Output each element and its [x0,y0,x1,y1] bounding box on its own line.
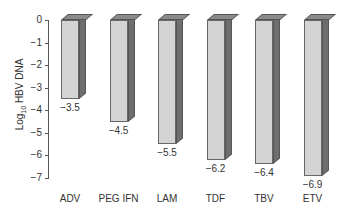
bar-front [158,20,176,144]
bar-top [110,14,142,20]
value-label: −3.5 [50,102,90,113]
bar-front [110,20,128,122]
y-tick [45,155,49,156]
bar-top [304,14,336,20]
y-axis-line [48,20,49,178]
bar-top [255,14,287,20]
bar-side [225,14,232,160]
y-tick-label: −4 [22,105,42,115]
y-tick [45,133,49,134]
y-tick [45,110,49,111]
bar-front [304,20,322,176]
y-tick [45,20,49,21]
bar-top [207,14,239,20]
y-tick-label: −6 [22,150,42,160]
y-tick [45,65,49,66]
y-tick [45,43,49,44]
y-tick-label: −7 [22,173,42,183]
value-label: −6.9 [293,179,333,190]
value-label: −6.4 [244,167,284,178]
bar-front [61,20,79,99]
y-tick-label: 0 [22,15,42,25]
y-tick-label: −1 [22,38,42,48]
bar-top [158,14,190,20]
bar-side [273,14,280,164]
value-label: −5.5 [147,147,187,158]
bar-side [176,14,183,144]
y-tick [45,178,49,179]
bar-side [322,14,329,176]
y-tick [45,88,49,89]
y-tick-label: −5 [22,128,42,138]
bar-front [207,20,225,160]
bar-top [61,14,93,20]
y-tick-label: −2 [22,60,42,70]
bar-side [128,14,135,121]
y-tick-label: −3 [22,83,42,93]
value-label: −6.2 [196,163,236,174]
bar-side [79,14,86,99]
chart: Log10 HBV DNA 0−1−2−3−4−5−6−7 −3.5−4.5−5… [0,0,345,214]
category-label: ETV [285,193,341,204]
bar-front [255,20,273,164]
value-label: −4.5 [99,125,139,136]
